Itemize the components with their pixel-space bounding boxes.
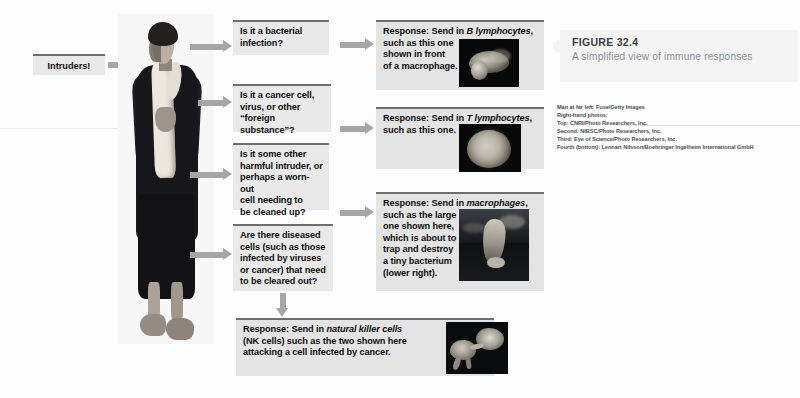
photo-credits: Man at far left: Fuse/Getty Images Right…	[557, 103, 797, 152]
scan-artifact	[0, 128, 120, 129]
credit-line: Top: CNRI/Photo Researchers, Inc.	[557, 119, 797, 127]
arrow-to-question-2	[198, 96, 232, 109]
caption-notch	[553, 39, 561, 54]
figure-subtitle: A simplified view of immune responses	[572, 50, 782, 64]
intruders-box: Intruders!	[33, 54, 105, 75]
arrow-to-response-1	[340, 38, 374, 51]
t-lymphocyte-micrograph	[459, 124, 521, 172]
b-lymphocyte-micrograph	[459, 39, 519, 87]
question-text-2: Is it a cancer cell, virus, or other “fo…	[240, 90, 325, 136]
arrow-to-response-3	[340, 206, 374, 219]
macrophage-micrograph	[459, 209, 529, 281]
credit-line: Second: NIBSC/Photo Researchers, Inc.	[557, 127, 797, 135]
natural-killer-cell-micrograph	[446, 322, 508, 374]
question-box-3: Is it some other harmful intruder, or pe…	[233, 143, 329, 210]
figure-canvas: Intruders! Is it a bacterial infection?	[0, 0, 800, 398]
question-text-4: Are there diseased cells (such as those …	[240, 230, 327, 288]
intruders-label: Intruders!	[48, 61, 91, 71]
credit-line: Fourth (bottom): Lennart Nilsson/Boehrin…	[557, 143, 797, 151]
question-box-4: Are there diseased cells (such as those …	[233, 224, 333, 291]
credit-line: Third: Eye of Science/Photo Researchers,…	[557, 135, 797, 143]
question-box-1: Is it a bacterial infection?	[233, 20, 329, 55]
credit-line: Man at far left: Fuse/Getty Images	[557, 103, 797, 111]
question-box-2: Is it a cancer cell, virus, or other “fo…	[233, 84, 331, 132]
figure-number: FIGURE 32.4	[572, 36, 638, 48]
arrow-to-question-3	[190, 168, 232, 181]
question-text-3: Is it some other harmful intruder, or pe…	[240, 149, 323, 219]
credit-line: Right-hand photos:	[557, 111, 797, 119]
question-text-1: Is it a bacterial infection?	[240, 26, 323, 49]
arrow-to-response-4	[276, 293, 289, 317]
arrow-to-response-2	[340, 122, 374, 135]
arrow-to-question-4	[190, 248, 232, 261]
arrow-to-question-1	[190, 40, 232, 53]
